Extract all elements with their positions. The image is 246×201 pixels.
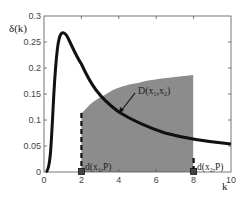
marker-x1 xyxy=(78,169,84,175)
x-tick-0: 0 xyxy=(41,175,46,185)
y-tick-03: 0.3 xyxy=(28,11,41,21)
marker-x2 xyxy=(191,169,197,175)
y-axis-label: δ(k) xyxy=(9,22,27,35)
y-tick-02: 0.2 xyxy=(28,63,41,73)
y-tick-01: 0.1 xyxy=(28,115,41,125)
x-tick-4: 4 xyxy=(116,175,121,185)
y-tick-015: 0.15 xyxy=(23,89,41,99)
chart: 0 2 4 6 8 10 0 0.05 0.1 0.15 0.2 0.25 0.… xyxy=(0,0,246,201)
y-tick-0: 0 xyxy=(36,167,41,177)
x-axis-label: k xyxy=(222,180,228,192)
y-tick-025: 0.25 xyxy=(23,37,41,47)
y-tick-005: 0.05 xyxy=(23,141,41,151)
x-tick-8: 8 xyxy=(191,175,196,185)
x-tick-6: 6 xyxy=(154,175,159,185)
x-tick-2: 2 xyxy=(79,175,84,185)
d-x2-label: d(x2,P) xyxy=(197,162,224,173)
